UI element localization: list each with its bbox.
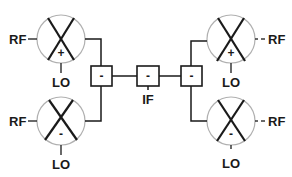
lo-label: LO (222, 156, 240, 171)
mixer-bottom-left: - RF LO (9, 97, 85, 172)
rf-label: RF (268, 32, 285, 47)
mixer-sign: + (227, 46, 234, 60)
lo-label: LO (52, 75, 70, 90)
wire-bottom-left (85, 86, 101, 121)
mixer-sign: - (229, 127, 233, 141)
combiner-sign: - (100, 69, 104, 83)
lo-label: LO (52, 157, 70, 172)
rf-label: RF (9, 114, 26, 129)
wire-bottom-right (191, 86, 207, 121)
combiner-sign: - (146, 69, 150, 83)
combiner-left: - (91, 66, 112, 86)
rf-label: RF (268, 114, 285, 129)
combiner-center: - (137, 66, 159, 86)
rf-label: RF (9, 32, 26, 47)
lo-label: LO (222, 75, 240, 90)
mixer-top-right: + RF LO (207, 15, 285, 90)
mixer-top-left: + RF LO (9, 15, 85, 90)
mixer-sign: - (59, 127, 63, 141)
wire-top-right (191, 41, 207, 66)
mixer-bottom-right: - RF LO (207, 97, 285, 171)
mixer-sign: + (57, 46, 64, 60)
if-label: IF (142, 92, 154, 107)
combiner-right: - (181, 66, 202, 86)
mixer-diagram: + RF LO - RF LO + RF LO - RF LO (0, 0, 292, 177)
wire-top-left (85, 39, 101, 66)
combiner-sign: - (190, 69, 194, 83)
